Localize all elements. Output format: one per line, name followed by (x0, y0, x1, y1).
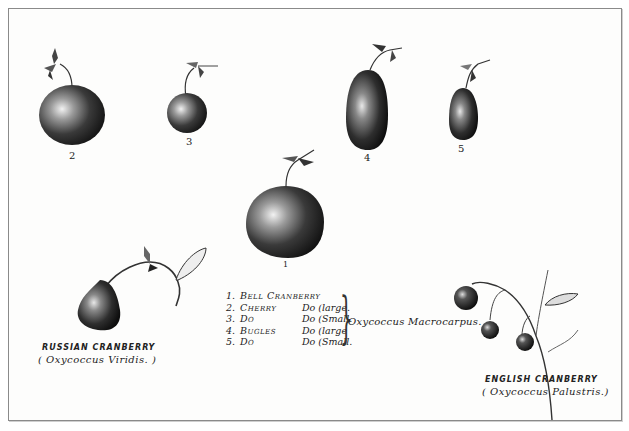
legend-variety: Cherry (240, 302, 302, 314)
berry-fig-4 (346, 44, 402, 150)
legend-row: 3. Do Do (Small. (226, 313, 357, 325)
russian-cranberry-title: RUSSIAN CRANBERRY (42, 343, 155, 352)
figure-number-3: 3 (186, 136, 192, 147)
legend-variety: Do (240, 336, 302, 348)
legend-number: 5. (226, 336, 240, 348)
berry-fig-3 (167, 62, 218, 133)
legend-variety: Bell Cranberry (240, 290, 302, 302)
legend-genus: Oxycoccus Macrocarpus. (348, 316, 482, 327)
berry-fig-2 (39, 48, 105, 145)
figure-number-4: 4 (364, 152, 370, 163)
berry-fig-1 (246, 150, 324, 258)
legend-number: 2. (226, 302, 240, 314)
variety-legend: 1. Bell Cranberry 2. Cherry Do (large. 3… (226, 290, 357, 348)
figure-number-1: 1 (283, 260, 288, 269)
legend-number: 3. (226, 313, 240, 325)
legend-number: 1. (226, 290, 240, 302)
english-cranberry-sprig (454, 270, 578, 420)
illustration-canvas (0, 0, 629, 431)
russian-cranberry-latin: ( Oxycoccus Viridis. ) (38, 354, 156, 365)
figure-number-2: 2 (69, 150, 75, 161)
russian-cranberry-sprig (78, 246, 206, 330)
legend-row: 2. Cherry Do (large. (226, 302, 357, 314)
legend-variety: Bugles (240, 325, 302, 337)
english-cranberry-title: ENGLISH CRANBERRY (485, 375, 598, 384)
legend-number: 4. (226, 325, 240, 337)
english-cranberry-latin: ( Oxycoccus Palustris.) (482, 386, 609, 397)
legend-variety: Do (240, 313, 302, 325)
legend-row: 5. Do Do (Small. (226, 336, 357, 348)
figure-number-5: 5 (458, 143, 464, 154)
legend-row: 1. Bell Cranberry (226, 290, 357, 302)
legend-row: 4. Bugles Do (large (226, 325, 357, 337)
berry-fig-5 (449, 60, 490, 140)
